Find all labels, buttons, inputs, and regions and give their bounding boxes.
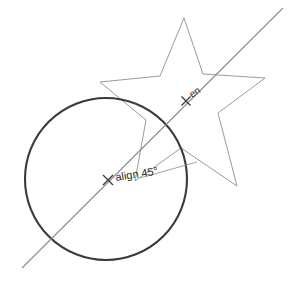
snap-marker-align[interactable] [103,175,113,185]
sketch-drawing-surface[interactable]: align 45° en [0,0,297,281]
alignment-line-45[interactable] [22,8,283,268]
sketch-canvas[interactable]: align 45° en [0,0,297,281]
circle-shape[interactable] [25,98,187,260]
star-shape[interactable] [100,18,265,186]
x-snap-marker [103,175,113,185]
